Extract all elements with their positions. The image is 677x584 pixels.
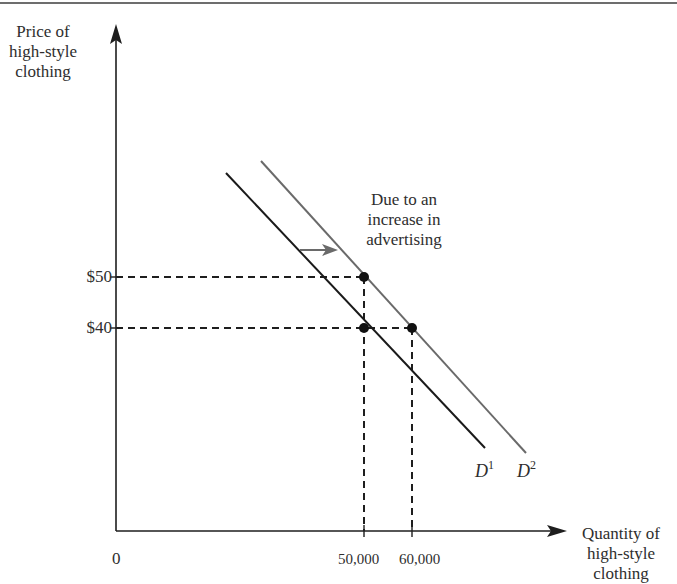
y-axis-label-line: Price of	[8, 22, 78, 42]
curve-label-d1: D1	[475, 455, 494, 481]
y-axis-label-line: high-style	[8, 42, 78, 62]
curve-label-d2-sup: 2	[530, 458, 536, 472]
point-d1-50000-40	[359, 323, 369, 333]
x-tick-label-50000: 50,000	[338, 549, 379, 569]
x-tick-label-60000: 60,000	[399, 549, 440, 569]
x-axis-label-line: high-style	[568, 544, 674, 564]
curve-label-d2-base: D	[517, 461, 530, 481]
y-tick-label-40: $40	[70, 318, 112, 338]
point-d2-60000-40	[407, 323, 417, 333]
x-axis-label: Quantity of high-style clothing	[568, 524, 674, 584]
x-axis-label-line: Quantity of	[568, 524, 674, 544]
x-axis-label-line: clothing	[568, 564, 674, 584]
curve-label-d2: D2	[517, 455, 536, 481]
chart-canvas	[0, 0, 677, 584]
shift-annotation: Due to an increase in advertising	[338, 190, 470, 250]
annotation-line: advertising	[338, 230, 470, 250]
curve-label-d1-sup: 1	[488, 458, 494, 472]
y-axis-label-line: clothing	[8, 62, 78, 82]
origin-label: 0	[112, 549, 121, 569]
curve-label-d1-base: D	[475, 461, 488, 481]
point-d2-50000-50	[359, 272, 369, 282]
annotation-line: increase in	[338, 210, 470, 230]
annotation-line: Due to an	[338, 190, 470, 210]
y-axis-label: Price of high-style clothing	[8, 22, 78, 82]
y-tick-label-50: $50	[70, 267, 112, 287]
